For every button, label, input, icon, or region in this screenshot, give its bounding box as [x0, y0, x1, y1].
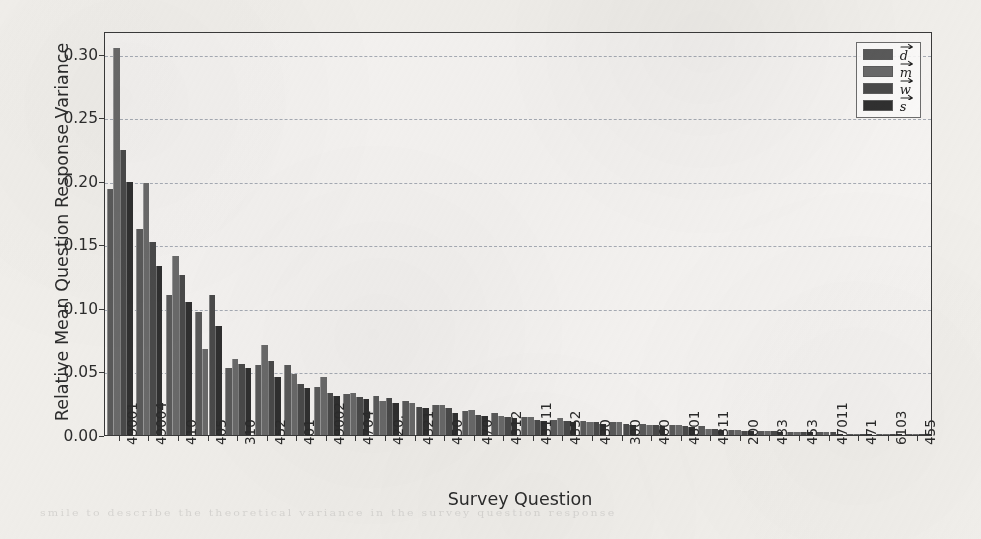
x-tick-label: 455	[922, 419, 938, 445]
x-tick-mark	[769, 436, 770, 441]
x-tick-mark	[444, 436, 445, 441]
x-tick-label: 310	[242, 419, 258, 445]
x-tick-mark	[888, 436, 889, 441]
y-tick-label: 0.05	[63, 363, 98, 381]
x-tick-mark	[385, 436, 386, 441]
bar	[409, 403, 416, 435]
x-tick-label: 4801	[686, 411, 702, 445]
legend-swatch	[863, 100, 893, 111]
x-tick-label: 401	[301, 419, 317, 445]
y-tick-label: 0.25	[63, 109, 98, 127]
x-tick-mark	[651, 436, 652, 441]
bar	[320, 377, 327, 435]
bar	[468, 410, 475, 435]
y-axis-tick-labels: 0.000.050.100.150.200.250.30	[38, 32, 98, 436]
x-tick-mark	[119, 436, 120, 441]
x-tick-label: 405	[213, 419, 229, 445]
x-tick-label: 4312	[508, 411, 524, 445]
vector-arrow-icon	[900, 77, 914, 83]
x-axis-tick-labels: 4900149004410405310452401490024704420.43…	[104, 436, 932, 486]
x-tick-mark	[562, 436, 563, 441]
x-tick-mark	[533, 436, 534, 441]
legend-swatch	[863, 49, 893, 60]
vector-arrow-icon	[900, 43, 914, 49]
x-tick-mark	[799, 436, 800, 441]
x-tick-mark	[178, 436, 179, 441]
x-tick-mark	[829, 436, 830, 441]
x-tick-mark	[917, 436, 918, 441]
x-tick-label: 47011	[834, 402, 850, 445]
bar	[675, 425, 682, 435]
legend-label: s	[900, 99, 907, 113]
x-tick-label: 49004	[153, 402, 169, 445]
x-tick-mark	[415, 436, 416, 441]
legend-item: s	[863, 99, 912, 112]
x-tick-mark	[592, 436, 593, 441]
x-tick-mark	[208, 436, 209, 441]
figure-canvas: Relative Mean Question Response Variance…	[0, 0, 981, 539]
x-tick-label: 433	[774, 419, 790, 445]
x-tick-mark	[296, 436, 297, 441]
x-tick-mark	[622, 436, 623, 441]
x-tick-mark	[710, 436, 711, 441]
x-tick-label: 430	[597, 419, 613, 445]
legend-swatch	[863, 66, 893, 77]
x-tick-label: 460	[656, 419, 672, 445]
vector-arrow-icon	[900, 94, 914, 100]
y-tick-label: 0.00	[63, 427, 98, 445]
bar	[261, 345, 268, 435]
x-tick-label: 6103	[893, 411, 909, 445]
x-tick-label: 4704	[360, 411, 376, 445]
x-tick-label: 4311	[715, 411, 731, 445]
x-tick-label: 49001	[124, 402, 140, 445]
x-tick-mark	[681, 436, 682, 441]
x-tick-mark	[237, 436, 238, 441]
x-tick-mark	[474, 436, 475, 441]
x-tick-label: 300	[627, 419, 643, 445]
x-tick-label: 471	[863, 419, 879, 445]
vector-arrow-icon	[900, 60, 914, 66]
legend-swatch	[863, 83, 893, 94]
x-tick-label: 4352	[567, 411, 583, 445]
x-tick-label: 410	[183, 419, 199, 445]
legend: dmws	[856, 42, 921, 118]
x-tick-label: 200	[745, 419, 761, 445]
x-tick-label: 4321	[420, 411, 436, 445]
bar	[616, 422, 623, 435]
x-tick-mark	[355, 436, 356, 441]
bar	[113, 48, 120, 435]
bar	[527, 417, 534, 435]
x-tick-label: 49002	[331, 402, 347, 445]
bar	[734, 430, 741, 435]
y-tick-label: 0.15	[63, 236, 98, 254]
x-axis-title: Survey Question	[100, 489, 940, 509]
plot-area: dmws	[104, 32, 932, 436]
x-tick-mark	[326, 436, 327, 441]
bar	[126, 182, 133, 435]
x-tick-label: 470	[479, 419, 495, 445]
x-tick-label: 452	[272, 419, 288, 445]
bar	[185, 302, 192, 435]
x-tick-mark	[503, 436, 504, 441]
bar	[823, 432, 830, 435]
x-tick-mark	[267, 436, 268, 441]
y-tick-label: 0.30	[63, 46, 98, 64]
bar	[882, 434, 889, 435]
y-tick-label: 0.10	[63, 300, 98, 318]
x-tick-label: 450	[449, 419, 465, 445]
x-tick-mark	[740, 436, 741, 441]
y-tick-label: 0.20	[63, 173, 98, 191]
bar	[202, 349, 209, 435]
x-tick-mark	[858, 436, 859, 441]
x-tick-label: 43111	[538, 402, 554, 445]
x-tick-mark	[148, 436, 149, 441]
x-tick-label: 453	[804, 419, 820, 445]
x-tick-label: 420.	[390, 415, 406, 445]
bar-series-group	[105, 33, 931, 435]
